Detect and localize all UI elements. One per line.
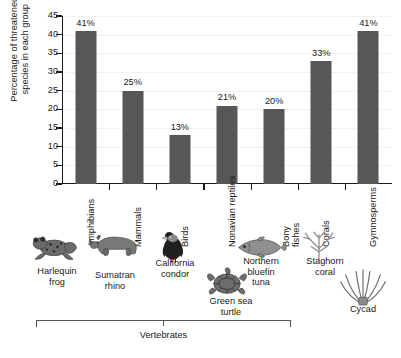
bar-value-label: 21% — [218, 93, 236, 102]
cycad-caption: Cycad — [330, 304, 396, 315]
y-tick-label-30: 30 — [12, 67, 58, 76]
x-tick-4 — [251, 184, 252, 190]
bar-value-label: 20% — [265, 97, 283, 106]
bar-slot: 41% — [345, 16, 392, 184]
bar-slot: 25% — [109, 16, 156, 184]
x-label-gymnosperms: Gymnosperms — [361, 191, 375, 249]
y-tick-label-15: 15 — [12, 123, 58, 132]
x-tick-6 — [345, 184, 346, 190]
vertebrates-bracket-label: Vertebrates — [36, 330, 291, 341]
bar-slot: 33% — [298, 16, 345, 184]
bar-series: 41%25%13%21%20%33%41% — [62, 16, 392, 184]
bar-bony-fishes[interactable] — [264, 109, 285, 184]
x-tick-1 — [109, 184, 110, 190]
y-tick-label-0: 0 — [12, 179, 58, 188]
y-tick-label-35: 35 — [12, 48, 58, 57]
northern-bluefin-tuna-caption: Northern bluefin tuna — [228, 256, 294, 288]
y-tick-label-25: 25 — [12, 86, 58, 95]
threatened-species-bar-chart: Percentage of threatened species in each… — [0, 0, 401, 358]
y-tick-label-40: 40 — [12, 30, 58, 39]
y-tick-label-45: 45 — [12, 11, 58, 20]
bar-mammals[interactable] — [122, 91, 143, 184]
bar-slot: 20% — [251, 16, 298, 184]
bar-slot: 21% — [203, 16, 250, 184]
bar-value-label: 41% — [359, 19, 377, 28]
y-tick-label-5: 5 — [12, 160, 58, 169]
x-tick-5 — [298, 184, 299, 190]
green-sea-turtle-caption: Green sea turtle — [196, 296, 266, 317]
x-label-text: Gymnosperms — [368, 187, 378, 247]
bar-value-label: 41% — [76, 19, 94, 28]
bar-gymnosperms[interactable] — [358, 31, 379, 184]
bar-slot: 41% — [62, 16, 109, 184]
california-condor-caption: California condor — [139, 258, 211, 279]
x-tick-3 — [203, 184, 204, 190]
x-label-nonavian-reptiles: Nonavian reptiles — [220, 191, 234, 249]
bar-value-label: 33% — [312, 49, 330, 58]
bar-value-label: 13% — [171, 123, 189, 132]
bar-nonavian-reptiles[interactable] — [216, 106, 237, 184]
y-tick-label-20: 20 — [12, 104, 58, 113]
bar-birds[interactable] — [169, 135, 190, 184]
y-tick-label-10: 10 — [12, 142, 58, 151]
rhino-illustration — [88, 230, 142, 264]
frog-illustration — [28, 232, 80, 266]
bar-value-label: 25% — [124, 78, 142, 87]
bar-amphibians[interactable] — [75, 31, 96, 184]
bar-slot: 13% — [156, 16, 203, 184]
x-tick-2 — [156, 184, 157, 190]
bar-corals[interactable] — [311, 61, 332, 184]
vertebrates-bracket-tick — [163, 320, 164, 326]
